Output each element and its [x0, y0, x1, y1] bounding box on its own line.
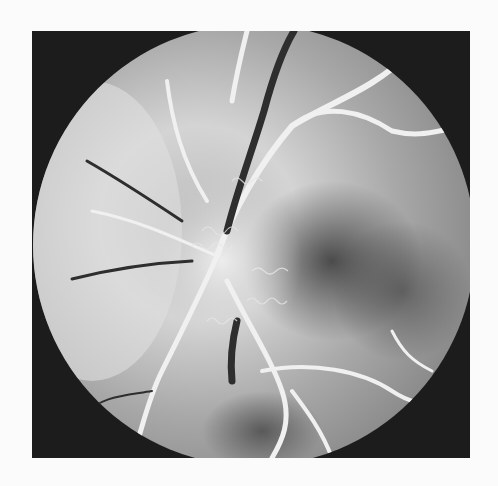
angiogram-frame	[32, 31, 470, 458]
fundus-photograph	[32, 31, 470, 458]
